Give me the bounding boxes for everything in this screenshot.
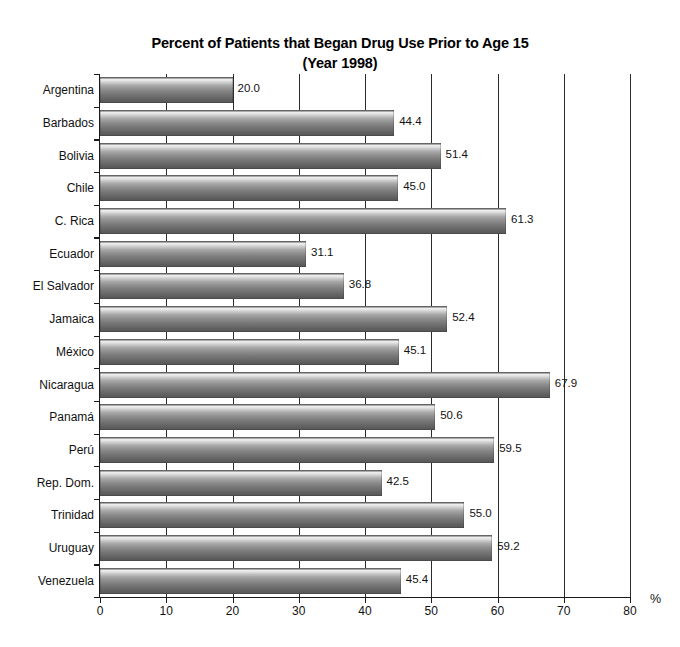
bar-per <box>100 437 494 463</box>
bar-row: 20.0 <box>100 77 630 103</box>
bar-value-label: 31.1 <box>311 246 333 259</box>
y-tick <box>94 237 100 238</box>
x-tick-label-0: 0 <box>97 604 104 618</box>
bar-chile <box>100 175 398 201</box>
y-axis-label-chile: Chile <box>0 181 94 195</box>
x-tick-80 <box>630 597 631 603</box>
bar-row: 59.5 <box>100 437 630 463</box>
bar-panam <box>100 404 435 430</box>
y-tick <box>94 336 100 337</box>
y-axis-category-labels: ArgentinaBarbadosBoliviaChileC. RicaEcua… <box>0 74 94 597</box>
x-tick-label-80: 80 <box>623 604 636 618</box>
bar-rep-dom <box>100 470 382 496</box>
y-tick <box>94 139 100 140</box>
y-tick <box>94 368 100 369</box>
bar-argentina <box>100 77 233 103</box>
y-axis-label-argentina: Argentina <box>0 83 94 97</box>
bar-row: 42.5 <box>100 470 630 496</box>
bar-value-label: 67.9 <box>555 377 577 390</box>
x-tick-label-30: 30 <box>292 604 305 618</box>
x-tick-30 <box>299 597 300 603</box>
y-tick <box>94 434 100 435</box>
bar-value-label: 51.4 <box>446 148 468 161</box>
bar-row: 52.4 <box>100 306 630 332</box>
x-tick-10 <box>166 597 167 603</box>
y-axis-label-c-rica: C. Rica <box>0 214 94 228</box>
bar-jamaica <box>100 306 447 332</box>
bar-bolivia <box>100 143 441 169</box>
bar-row: 67.9 <box>100 372 630 398</box>
bar-value-label: 45.1 <box>404 344 426 357</box>
chart-title-line1: Percent of Patients that Began Drug Use … <box>151 35 528 51</box>
bar-row: 45.4 <box>100 568 630 594</box>
y-tick <box>94 401 100 402</box>
y-axis-label-rep-dom: Rep. Dom. <box>0 476 94 490</box>
bar-value-label: 55.0 <box>469 507 491 520</box>
y-axis-label-trinidad: Trinidad <box>0 508 94 522</box>
bar-row: 61.3 <box>100 208 630 234</box>
y-tick <box>94 74 100 75</box>
bar-m-xico <box>100 339 399 365</box>
bar-value-label: 36.8 <box>349 278 371 291</box>
gridline-x-80 <box>630 74 631 597</box>
bar-value-label: 52.4 <box>452 311 474 324</box>
y-tick <box>94 270 100 271</box>
y-axis-label-el-salvador: El Salvador <box>0 279 94 293</box>
bar-value-label: 44.4 <box>399 115 421 128</box>
bar-row: 59.2 <box>100 535 630 561</box>
bar-row: 50.6 <box>100 404 630 430</box>
bar-value-label: 42.5 <box>387 475 409 488</box>
bar-row: 55.0 <box>100 502 630 528</box>
bar-value-label: 61.3 <box>511 213 533 226</box>
x-tick-70 <box>564 597 565 603</box>
x-tick-60 <box>498 597 499 603</box>
y-axis-label-m-xico: México <box>0 345 94 359</box>
bar-trinidad <box>100 502 464 528</box>
y-tick <box>94 532 100 533</box>
bar-venezuela <box>100 568 401 594</box>
bar-value-label: 20.0 <box>238 82 260 95</box>
x-tick-label-50: 50 <box>425 604 438 618</box>
x-tick-label-10: 10 <box>160 604 173 618</box>
x-tick-label-70: 70 <box>557 604 570 618</box>
y-axis-label-uruguay: Uruguay <box>0 541 94 555</box>
y-tick <box>94 205 100 206</box>
bar-barbados <box>100 110 394 136</box>
bar-row: 51.4 <box>100 143 630 169</box>
chart-title: Percent of Patients that Began Drug Use … <box>0 33 680 73</box>
y-tick <box>94 466 100 467</box>
y-axis-label-per: Perú <box>0 443 94 457</box>
bar-row: 36.8 <box>100 273 630 299</box>
bar-ecuador <box>100 241 306 267</box>
x-tick-label-60: 60 <box>491 604 504 618</box>
y-axis-label-barbados: Barbados <box>0 116 94 130</box>
bar-value-label: 45.0 <box>403 180 425 193</box>
bar-row: 31.1 <box>100 241 630 267</box>
y-tick <box>94 499 100 500</box>
x-axis-unit-label: % <box>650 592 661 606</box>
y-tick <box>94 303 100 304</box>
x-tick-0 <box>100 597 101 603</box>
y-axis-label-bolivia: Bolivia <box>0 149 94 163</box>
x-tick-40 <box>365 597 366 603</box>
x-tick-20 <box>233 597 234 603</box>
y-tick <box>94 107 100 108</box>
bar-value-label: 45.4 <box>406 573 428 586</box>
bar-value-label: 59.2 <box>497 540 519 553</box>
x-tick-label-20: 20 <box>226 604 239 618</box>
y-axis-label-panam: Panamá <box>0 410 94 424</box>
bar-row: 45.1 <box>100 339 630 365</box>
y-axis-label-nicaragua: Nicaragua <box>0 378 94 392</box>
y-tick <box>94 172 100 173</box>
x-axis-tick-labels: 01020304050607080 <box>100 604 630 624</box>
y-axis-label-venezuela: Venezuela <box>0 574 94 588</box>
bar-value-label: 59.5 <box>499 442 521 455</box>
y-axis-label-jamaica: Jamaica <box>0 312 94 326</box>
bar-uruguay <box>100 535 492 561</box>
x-tick-label-40: 40 <box>358 604 371 618</box>
y-tick <box>94 564 100 565</box>
bar-el-salvador <box>100 273 344 299</box>
y-axis-label-ecuador: Ecuador <box>0 247 94 261</box>
x-tick-50 <box>431 597 432 603</box>
y-tick <box>94 597 100 598</box>
